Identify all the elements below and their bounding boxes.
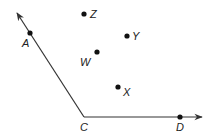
point-a [27,30,32,35]
point-z [81,11,86,16]
point-y [124,33,129,38]
point-w [94,49,99,54]
point-label-z: Z [89,8,98,20]
vertex-label-c: C [80,121,88,133]
ray-ca [17,13,84,117]
points-layer: ADZYWX [21,8,184,133]
point-label-d: D [176,121,184,133]
point-d [177,114,182,119]
point-x [115,84,120,89]
point-label-a: A [21,37,29,49]
point-label-y: Y [132,30,140,42]
angle-diagram: ADZYWX C [0,0,205,140]
point-label-w: W [80,56,92,68]
point-label-x: X [122,86,131,98]
